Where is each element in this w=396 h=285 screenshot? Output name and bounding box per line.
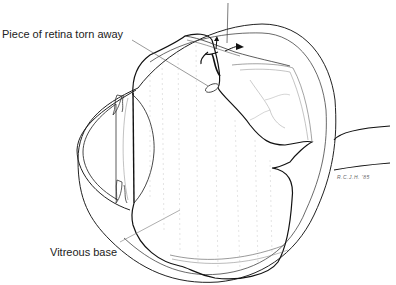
artist-signature: R.C.J.H. '85 xyxy=(337,174,370,180)
label-vitreous-base: Vitreous base xyxy=(50,246,117,258)
label-retina-piece: Piece of retina torn away xyxy=(2,28,123,40)
eye-diagram xyxy=(0,0,396,285)
